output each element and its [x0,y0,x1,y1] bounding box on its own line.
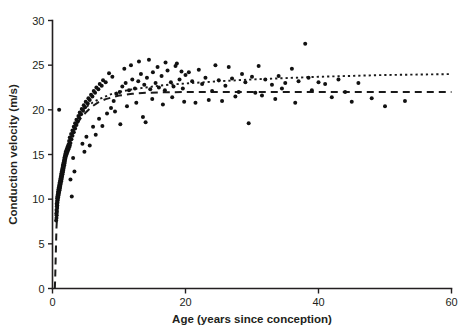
data-point [310,88,314,92]
data-point [105,111,109,115]
data-point [336,77,340,81]
data-point [89,93,93,97]
data-point [120,85,124,89]
data-point [94,133,98,137]
data-point [110,75,114,79]
data-point [80,142,84,146]
y-axis-title: Conduction velocity (m/s) [7,84,19,225]
data-point [82,103,86,107]
data-point [129,63,133,67]
data-point [125,104,129,108]
data-point [112,99,116,103]
scatter-plot: 051015202530 0204060 Age (years since co… [0,0,467,334]
data-point [144,120,148,124]
data-point [84,135,88,139]
data-point [147,58,151,62]
data-point [370,96,374,100]
data-point [141,115,145,119]
data-point [109,106,113,110]
data-point [57,108,61,112]
data-point [122,67,126,71]
data-point [356,81,360,85]
data-point [277,74,281,78]
data-point [88,144,92,148]
data-point [330,95,334,99]
data-point [213,63,217,67]
data-point [97,117,101,121]
data-point [350,100,354,104]
data-point [139,72,143,76]
data-point [227,65,231,69]
data-point [317,80,321,84]
data-point [283,81,287,85]
data-point [101,78,105,82]
data-point [118,122,122,126]
data-point [200,82,204,86]
data-point [323,82,327,86]
data-point [253,91,257,95]
data-point [72,169,76,173]
data-point [107,71,111,75]
data-point [187,70,191,74]
data-point [383,104,387,108]
data-point [233,94,237,98]
data-point [127,88,131,92]
chart-figure: 051015202530 0204060 Age (years since co… [0,0,467,334]
data-point [156,65,160,69]
data-point [166,69,170,73]
data-point [170,95,174,99]
data-point [136,79,140,83]
data-point [250,75,254,79]
data-point [91,125,95,129]
data-point [223,84,227,88]
x-axis-title: Age (years since conception) [172,313,332,325]
data-point [207,98,211,102]
y-tick-label: 15 [32,149,44,161]
data-point [260,94,264,98]
data-point [303,42,307,46]
data-point [297,79,301,83]
data-point [293,101,297,105]
data-point [92,89,96,93]
data-point [247,121,251,125]
x-tick-label: 40 [312,296,324,308]
data-point [124,81,128,85]
data-point [148,87,152,91]
data-point [82,150,86,154]
data-point [118,90,122,94]
data-point [113,110,117,114]
x-tick-label: 60 [445,296,457,308]
data-point [150,97,154,101]
data-point [210,89,214,93]
x-tick-label: 20 [179,296,191,308]
data-point [180,69,184,73]
data-point [163,88,167,92]
data-point [100,124,104,128]
data-point [197,68,201,72]
y-tick-label: 20 [32,104,44,116]
data-point [343,90,347,94]
data-point [403,99,407,103]
data-point [94,86,98,90]
data-point [142,83,146,87]
data-point [172,85,176,89]
data-point [273,97,277,101]
y-tick-label: 10 [32,193,44,205]
data-point [151,70,155,74]
data-point [134,101,138,105]
data-point [169,80,173,84]
y-tick-label: 30 [32,15,44,27]
data-point [270,83,274,87]
data-point [137,60,141,64]
data-point [237,90,241,94]
data-point [243,80,247,84]
data-point [154,81,158,85]
data-point [161,102,165,106]
data-point [240,72,244,76]
data-point [84,100,88,104]
data-point [174,64,178,68]
data-point [68,178,72,182]
data-point [280,86,284,90]
data-point [217,78,221,82]
y-tick-label: 5 [38,238,44,250]
